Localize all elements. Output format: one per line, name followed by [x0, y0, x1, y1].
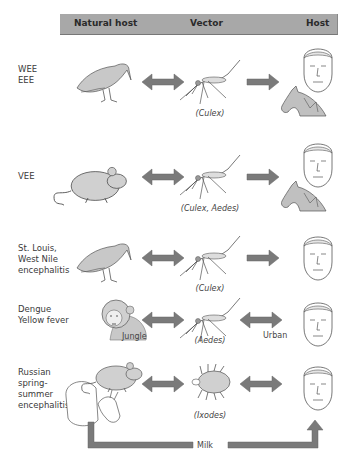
- disease-line: EEE: [18, 75, 37, 86]
- urban-label: Urban: [263, 331, 287, 340]
- disease-line: WEE: [18, 64, 37, 75]
- disease-label-wee-eee: WEE EEE: [18, 64, 37, 86]
- mosquito-icon: [178, 60, 248, 100]
- milk-label: Milk: [197, 441, 213, 450]
- disease-line: West Nile: [18, 254, 69, 265]
- disease-line: Dengue: [18, 304, 69, 315]
- double-arrow-icon: [240, 376, 286, 392]
- disease-line: encephalitis: [18, 265, 69, 276]
- vector-label: (Culex, Aedes): [175, 204, 245, 213]
- bird-icon: [75, 58, 135, 108]
- disease-label-st-louis-west-nile: St. Louis, West Nile encephalitis: [18, 243, 69, 276]
- mosquito-icon: [178, 298, 248, 338]
- column-header-bar: Natural host Vector Host: [60, 14, 338, 35]
- mosquito-icon: [178, 155, 248, 195]
- vector-label: (Culex): [190, 284, 230, 293]
- human-head-icon: [298, 298, 338, 348]
- header-natural-host: Natural host: [74, 18, 137, 28]
- tick-icon: [192, 364, 236, 404]
- right-arrow-icon: [247, 169, 279, 185]
- horse-head-icon: [280, 86, 330, 120]
- disease-label-vee: VEE: [18, 171, 35, 182]
- disease-label-dengue-yellow-fever: Dengue Yellow fever: [18, 304, 69, 326]
- header-vector: Vector: [190, 18, 223, 28]
- disease-line: St. Louis,: [18, 243, 69, 254]
- human-head-icon: [298, 232, 338, 282]
- header-host: Host: [306, 18, 329, 28]
- disease-line: VEE: [18, 171, 35, 182]
- right-arrow-icon: [247, 74, 279, 90]
- mosquito-icon: [178, 236, 248, 276]
- right-arrow-icon: [247, 250, 279, 266]
- jungle-label: Jungle: [122, 332, 147, 341]
- disease-line: Yellow fever: [18, 315, 69, 326]
- vector-label: (Culex): [190, 109, 230, 118]
- vector-label: (Ixodes): [190, 411, 230, 420]
- double-arrow-icon: [240, 312, 286, 328]
- human-head-icon: [298, 362, 338, 412]
- rodent-icon: [52, 162, 136, 202]
- horse-head-icon: [280, 181, 330, 215]
- rodent-icon: [80, 358, 140, 392]
- bird-icon: [75, 238, 135, 288]
- vector-label: (Aedes): [190, 336, 230, 345]
- double-arrow-icon: [142, 376, 184, 392]
